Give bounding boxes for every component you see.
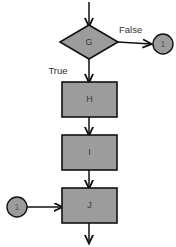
decision-node-g-label: G <box>85 37 92 47</box>
connector-node-out-label: 1 <box>160 39 165 49</box>
process-node-i-label: I <box>88 147 91 157</box>
flowchart-canvas: G False 1 True H I 1 J <box>0 0 176 247</box>
process-node-j-label: J <box>87 200 92 210</box>
process-node-h-label: H <box>86 94 93 104</box>
edge-decision-false-to-connector <box>118 42 151 44</box>
flowchart-svg: G False 1 True H I 1 J <box>0 0 176 247</box>
edge-label-false: False <box>119 24 142 35</box>
connector-node-in-label: 1 <box>14 202 19 212</box>
edge-label-true: True <box>48 65 67 76</box>
